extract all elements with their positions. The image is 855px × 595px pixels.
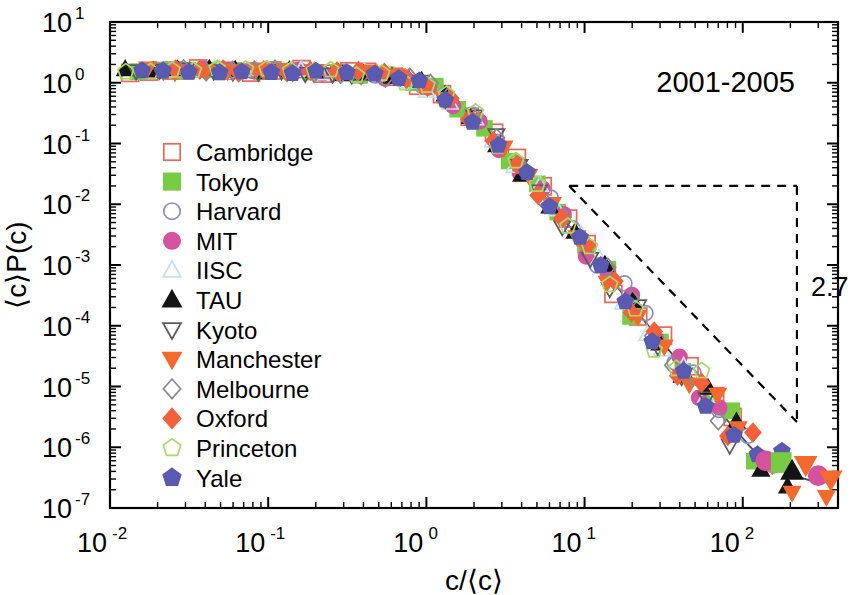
legend-marker-harvard xyxy=(164,203,180,219)
legend-label-oxford: Oxford xyxy=(196,405,268,432)
data-point xyxy=(784,487,800,501)
x-tick-label: 102 xyxy=(710,524,754,558)
y-tick-label: 10-3 xyxy=(42,247,90,281)
legend-label-tau: TAU xyxy=(196,287,242,314)
y-tick-mantissa: 10 xyxy=(42,312,72,342)
slope-hypotenuse xyxy=(569,186,797,422)
y-tick-exponent: 1 xyxy=(75,4,84,23)
y-tick-mantissa: 10 xyxy=(42,494,72,524)
x-tick-mantissa: 10 xyxy=(710,528,740,558)
y-tick-exponent: -6 xyxy=(75,429,90,448)
legend-item-oxford[interactable]: Oxford xyxy=(163,405,268,432)
legend-marker-tokyo xyxy=(164,173,180,189)
legend-label-cambridge: Cambridge xyxy=(196,139,313,166)
y-tick-label: 10-1 xyxy=(42,126,90,160)
x-tick-label: 10-1 xyxy=(235,524,285,558)
legend-label-tokyo: Tokyo xyxy=(196,169,259,196)
x-tick-exponent: 1 xyxy=(587,524,596,543)
data-point xyxy=(818,491,834,505)
y-tick-exponent: -4 xyxy=(75,308,90,327)
x-tick-mantissa: 10 xyxy=(235,528,265,558)
y-tick-mantissa: 10 xyxy=(42,251,72,281)
legend-label-iisc: IISC xyxy=(196,257,243,284)
y-tick-mantissa: 10 xyxy=(42,69,72,99)
legend-item-kyoto[interactable]: Kyoto xyxy=(163,317,257,344)
legend-item-iisc[interactable]: IISC xyxy=(163,257,243,284)
y-axis-label: ⟨c⟩P(c) xyxy=(1,221,32,308)
legend-label-melbourne: Melbourne xyxy=(196,376,309,403)
legend-label-yale: Yale xyxy=(196,465,242,492)
y-tick-label: 10-2 xyxy=(42,186,90,220)
legend-marker-cambridge xyxy=(164,144,180,160)
legend-item-mit[interactable]: MIT xyxy=(164,228,238,255)
legend: CambridgeTokyoHarvardMITIISCTAUKyotoManc… xyxy=(163,139,321,492)
legend-label-kyoto: Kyoto xyxy=(196,317,257,344)
legend-label-harvard: Harvard xyxy=(196,198,281,225)
series-melbourne xyxy=(156,60,726,430)
legend-marker-kyoto xyxy=(163,323,181,339)
legend-marker-oxford xyxy=(163,409,180,429)
legend-label-manchester: Manchester xyxy=(196,346,321,373)
x-axis-label: c/⟨c⟩ xyxy=(445,565,503,595)
y-tick-mantissa: 10 xyxy=(42,8,72,38)
y-tick-mantissa: 10 xyxy=(42,190,72,220)
y-tick-exponent: -1 xyxy=(75,126,90,145)
x-tick-exponent: 0 xyxy=(428,524,437,543)
legend-item-yale[interactable]: Yale xyxy=(163,465,242,492)
legend-marker-mit xyxy=(164,233,180,249)
y-tick-label: 10-4 xyxy=(42,308,90,342)
legend-label-mit: MIT xyxy=(196,228,238,255)
legend-marker-manchester xyxy=(163,353,181,369)
y-tick-exponent: -7 xyxy=(75,490,90,509)
y-tick-mantissa: 10 xyxy=(42,130,72,160)
x-tick-exponent: -2 xyxy=(112,524,127,543)
x-tick-label: 10-2 xyxy=(77,524,127,558)
y-tick-label: 10-5 xyxy=(42,369,90,403)
chart-svg: 10-210-110010110210110010-110-210-310-41… xyxy=(0,0,855,595)
data-point xyxy=(745,424,761,442)
y-tick-exponent: -2 xyxy=(75,186,90,205)
legend-marker-iisc xyxy=(163,261,181,277)
date-range-annotation: 2001-2005 xyxy=(656,66,795,98)
legend-item-melbourne[interactable]: Melbourne xyxy=(163,376,309,403)
x-tick-exponent: 2 xyxy=(745,524,754,543)
y-tick-exponent: 0 xyxy=(75,65,84,84)
y-tick-exponent: -3 xyxy=(75,247,90,266)
legend-label-princeton: Princeton xyxy=(196,435,297,462)
x-tick-exponent: -1 xyxy=(270,524,285,543)
y-tick-mantissa: 10 xyxy=(42,433,72,463)
chart-figure: 10-210-110010110210110010-110-210-310-41… xyxy=(0,0,855,595)
legend-marker-yale xyxy=(163,468,180,485)
slope-value-label: 2.7 xyxy=(811,272,849,302)
x-tick-mantissa: 10 xyxy=(552,528,582,558)
legend-item-tokyo[interactable]: Tokyo xyxy=(164,169,259,196)
legend-item-cambridge[interactable]: Cambridge xyxy=(164,139,314,166)
x-tick-mantissa: 10 xyxy=(77,528,107,558)
legend-item-tau[interactable]: TAU xyxy=(163,287,242,314)
y-tick-exponent: -5 xyxy=(75,369,90,388)
legend-item-harvard[interactable]: Harvard xyxy=(164,198,282,225)
y-tick-mantissa: 10 xyxy=(42,373,72,403)
y-tick-label: 100 xyxy=(42,65,85,99)
y-tick-label: 10-6 xyxy=(42,429,90,463)
x-tick-label: 101 xyxy=(552,524,596,558)
x-tick-mantissa: 10 xyxy=(393,528,423,558)
y-tick-label: 10-7 xyxy=(42,490,90,524)
legend-marker-melbourne xyxy=(163,379,180,399)
x-tick-label: 100 xyxy=(393,524,437,558)
y-tick-label: 101 xyxy=(42,4,85,38)
legend-item-princeton[interactable]: Princeton xyxy=(163,435,297,462)
legend-marker-tau xyxy=(163,291,181,307)
legend-marker-princeton xyxy=(163,439,180,456)
legend-item-manchester[interactable]: Manchester xyxy=(163,346,321,373)
